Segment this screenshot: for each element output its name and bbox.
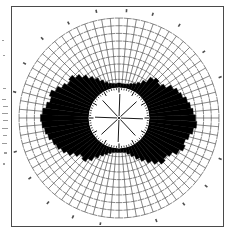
scanned-page: Polar rose diagram [0,0,237,238]
scan-edge-speckle [0,0,10,238]
inner-dial-group [88,87,150,149]
polar-rose-chart [12,7,222,225]
figure-frame [11,6,224,227]
polar-plot-area [12,7,223,226]
